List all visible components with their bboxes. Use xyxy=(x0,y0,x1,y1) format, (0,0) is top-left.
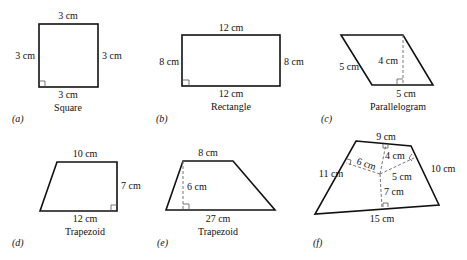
trapezoid-e-bottom-label: 27 cm xyxy=(206,213,231,224)
caption-e: (e) xyxy=(157,237,169,249)
right-angle-icon xyxy=(182,80,189,86)
square-bottom-label: 3 cm xyxy=(58,89,78,100)
trapezoid-e-top-label: 8 cm xyxy=(198,147,218,158)
caption-a: (a) xyxy=(12,113,24,125)
quad-to-top-label: 4 cm xyxy=(385,150,405,161)
quad-to-bottom-label: 7 cm xyxy=(384,186,404,197)
quad-right-label: 10 cm xyxy=(431,163,456,174)
parallelogram-name: Parallelogram xyxy=(370,101,426,112)
caption-f: (f) xyxy=(313,237,323,249)
trapezoid-d-name: Trapezoid xyxy=(65,226,105,237)
quad-to-left-label: 6 cm xyxy=(355,155,377,172)
perpendicular-bottom xyxy=(380,174,382,208)
rectangle-bottom-label: 12 cm xyxy=(219,88,244,99)
figure-trapezoid-d: 10 cm 7 cm 12 cm Trapezoid (d) xyxy=(12,148,141,249)
trapezoid-d-right-label: 7 cm xyxy=(121,180,141,191)
trapezoid-e-height-label: 6 cm xyxy=(187,181,207,192)
geometry-figures: 3 cm 3 cm 3 cm 3 cm Square (a) 12 cm 8 c… xyxy=(0,0,467,260)
quad-to-right-label: 5 cm xyxy=(392,171,412,182)
caption-b: (b) xyxy=(156,113,168,125)
square-top-label: 3 cm xyxy=(58,10,78,21)
figure-square: 3 cm 3 cm 3 cm 3 cm Square (a) xyxy=(12,10,122,125)
quad-left-label: 11 cm xyxy=(319,168,344,179)
caption-c: (c) xyxy=(321,113,333,125)
quad-bottom-label: 15 cm xyxy=(370,213,395,224)
caption-d: (d) xyxy=(12,237,24,249)
quad-top-label: 9 cm xyxy=(376,131,396,142)
right-angle-icon xyxy=(111,205,117,211)
square-shape xyxy=(39,24,98,87)
right-angle-icon xyxy=(397,79,403,85)
rectangle-right-label: 8 cm xyxy=(284,56,304,67)
parallelogram-height-label: 4 cm xyxy=(378,55,398,66)
rectangle-left-label: 8 cm xyxy=(159,56,179,67)
right-angle-icon xyxy=(183,204,189,210)
figure-quadrilateral-f: 9 cm 11 cm 10 cm 15 cm 4 cm 6 cm 5 cm 7 … xyxy=(313,131,456,249)
square-right-label: 3 cm xyxy=(102,50,122,61)
rectangle-top-label: 12 cm xyxy=(219,22,244,33)
parallelogram-side-label: 5 cm xyxy=(339,61,359,72)
trapezoid-d-shape xyxy=(40,162,117,211)
trapezoid-d-top-label: 10 cm xyxy=(73,148,98,159)
square-left-label: 3 cm xyxy=(15,50,35,61)
trapezoid-e-shape xyxy=(166,161,275,210)
square-name: Square xyxy=(54,102,82,113)
figure-trapezoid-e: 8 cm 6 cm 27 cm Trapezoid (e) xyxy=(157,147,275,249)
figure-rectangle: 12 cm 8 cm 8 cm 12 cm Rectangle (b) xyxy=(156,22,304,125)
parallelogram-base-label: 5 cm xyxy=(396,88,416,99)
figure-parallelogram: 5 cm 4 cm 5 cm Parallelogram (c) xyxy=(321,35,433,125)
trapezoid-e-name: Trapezoid xyxy=(198,226,238,237)
trapezoid-d-bottom-label: 12 cm xyxy=(73,213,98,224)
rectangle-name: Rectangle xyxy=(211,101,252,112)
right-angle-icon xyxy=(39,81,45,87)
rectangle-shape xyxy=(182,35,280,86)
right-angle-icon xyxy=(383,203,388,207)
